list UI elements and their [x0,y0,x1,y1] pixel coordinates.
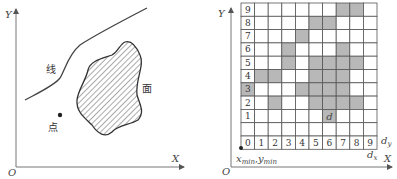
grid-cell [336,109,350,122]
col-label: 3 [286,138,292,148]
origin-label: O [8,167,16,178]
grid-cell [295,30,309,43]
grid-cell [309,96,323,109]
grid-cell [336,123,350,136]
grid-cell [282,43,296,56]
row-label: 1 [245,111,251,121]
grid-origin-dot [239,146,243,150]
grid-cell [255,56,269,69]
grid-cell [363,56,377,69]
dy-label: dy [381,135,392,148]
grid-cell [282,70,296,83]
grid-cell [363,3,377,16]
grid-cell [268,83,282,96]
grid-cell [363,43,377,56]
grid-cell [268,123,282,136]
row-label: 4 [245,71,251,81]
grid-cell [350,109,364,122]
grid-cell [363,123,377,136]
grid-cell [268,43,282,56]
grid-cell [363,83,377,96]
grid-cell [323,3,337,16]
grid-cell [295,109,309,122]
grid-cell [336,30,350,43]
y-axis-label: Y [218,8,226,19]
col-label: 6 [327,138,333,148]
grid-cell [323,56,337,69]
grid-cell [295,123,309,136]
grid-cell [282,96,296,109]
grid-cell [255,96,269,109]
grid-cell [350,43,364,56]
grid-cell [309,43,323,56]
grid-cell [255,16,269,29]
point-feature [58,113,62,117]
x-axis-label: X [171,153,180,164]
grid-cell [309,70,323,83]
grid-cell [255,83,269,96]
grid-cell [295,83,309,96]
grid-cell [323,30,337,43]
grid-cell [309,56,323,69]
grid-cell [309,83,323,96]
point-label: 点 [48,122,58,133]
grid-cell [268,16,282,29]
min-corner-label: xmin,ymin [236,153,277,166]
grid-cell [336,96,350,109]
grid-cell [282,16,296,29]
grid-cell [309,123,323,136]
area-label: 面 [142,83,152,94]
grid-cell [282,123,296,136]
grid-cell [336,16,350,29]
grid-cell [268,56,282,69]
row-label: 7 [245,31,251,41]
grid-cell [323,70,337,83]
grid-cell [255,109,269,122]
grid-cell [295,96,309,109]
grid-cell [350,3,364,16]
grid-cell [282,83,296,96]
dx-label: dx [367,149,377,162]
grid-cell [336,70,350,83]
grid-cell [268,3,282,16]
grid-cell [363,30,377,43]
raster-panel: Y X O 9876543210123456789d xmin,ymin dy … [218,3,392,177]
grid-cell [350,30,364,43]
grid-cell [350,56,364,69]
grid-cell [282,30,296,43]
row-label: 3 [245,84,251,94]
grid-cell [323,16,337,29]
grid-cell [282,109,296,122]
grid-cell [255,70,269,83]
area-feature [77,42,142,135]
grid-cell [350,70,364,83]
grid-cell [268,70,282,83]
grid-cell [336,56,350,69]
grid-cell [363,96,377,109]
grid-cell [350,83,364,96]
col-label: 5 [313,138,319,148]
grid-cell [336,83,350,96]
grid-cell [255,43,269,56]
grid-cell [350,123,364,136]
grid-cell [336,43,350,56]
col-label: 9 [367,138,373,148]
col-label: 7 [340,138,346,148]
grid-cell [309,109,323,122]
x-axis-label: X [383,153,392,164]
vector-panel: Y X O 线 面 点 [5,8,184,178]
row-label: 6 [245,44,251,54]
grid-cell [295,43,309,56]
grid-cell [323,96,337,109]
grid-cell [350,16,364,29]
grid-cell [336,3,350,16]
grid-cell [363,70,377,83]
grid-cell [255,123,269,136]
grid-cell [268,96,282,109]
grid-cell [282,56,296,69]
grid-cell [323,83,337,96]
row-label: 9 [245,5,251,15]
origin-label: O [222,166,230,177]
y-axis-label: Y [5,9,13,20]
col-label: 1 [259,138,265,148]
